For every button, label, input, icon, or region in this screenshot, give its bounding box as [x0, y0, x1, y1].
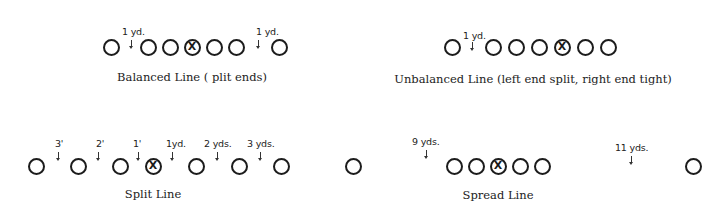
lineman-circle-icon: [70, 158, 87, 175]
lineman-circle-icon: [444, 39, 461, 56]
lineman-circle-icon: [273, 158, 290, 175]
down-arrow-icon: [426, 150, 427, 157]
center-player-icon: X: [145, 158, 162, 175]
split-distance-label: 11 yds.: [615, 142, 648, 153]
lineman-circle-icon: [512, 158, 529, 175]
center-x-mark: X: [492, 160, 505, 173]
lineman-circle-icon: [28, 158, 45, 175]
split-distance-label: 3 yds.: [247, 138, 275, 149]
lineman-circle-icon: [485, 39, 502, 56]
lineman-circle-icon: [446, 158, 463, 175]
center-x-mark: X: [556, 41, 569, 54]
split-distance-label: 3': [55, 138, 63, 149]
down-arrow-icon: [260, 152, 261, 159]
split-distance-label: 1yd.: [166, 138, 186, 149]
lineman-circle-icon: [468, 158, 485, 175]
formation-caption: Split Line: [125, 187, 181, 201]
formation-caption: Balanced Line ( plit ends): [117, 70, 267, 84]
split-distance-label: 1': [133, 138, 141, 149]
lineman-circle-icon: [103, 39, 120, 56]
split-distance-label: 1 yd.: [463, 30, 486, 41]
split-distance-label: 1 yd.: [122, 26, 145, 37]
formation-caption: Spread Line: [463, 188, 534, 201]
down-arrow-icon: [131, 40, 132, 47]
lineman-circle-icon: [231, 158, 248, 175]
center-player-icon: X: [554, 39, 571, 56]
lineman-circle-icon: [162, 39, 179, 56]
split-distance-label: 9 yds.: [412, 136, 440, 147]
lineman-circle-icon: [206, 39, 223, 56]
lineman-circle-icon: [228, 39, 245, 56]
down-arrow-icon: [138, 152, 139, 159]
center-x-mark: X: [186, 41, 199, 54]
lineman-circle-icon: [140, 39, 157, 56]
center-x-mark: X: [147, 160, 160, 173]
down-arrow-icon: [172, 152, 173, 159]
split-distance-label: 1 yd.: [256, 26, 279, 37]
center-player-icon: X: [184, 39, 201, 56]
lineman-circle-icon: [577, 39, 594, 56]
lineman-circle-icon: [188, 158, 205, 175]
lineman-circle-icon: [534, 158, 551, 175]
center-player-icon: X: [490, 158, 507, 175]
split-distance-label: 2': [96, 138, 104, 149]
lineman-circle-icon: [508, 39, 525, 56]
down-arrow-icon: [631, 156, 632, 163]
lineman-circle-icon: [112, 158, 129, 175]
down-arrow-icon: [217, 152, 218, 159]
down-arrow-icon: [472, 42, 473, 49]
lineman-circle-icon: [685, 158, 702, 175]
split-distance-label: 2 yds.: [204, 138, 232, 149]
down-arrow-icon: [98, 152, 99, 159]
formation-caption: Unbalanced Line (left end split, right e…: [394, 72, 672, 86]
lineman-circle-icon: [345, 158, 362, 175]
down-arrow-icon: [58, 152, 59, 159]
lineman-circle-icon: [531, 39, 548, 56]
line-formations-diagram: X1 yd.1 yd.Balanced Line ( plit ends)X1 …: [0, 0, 713, 201]
lineman-circle-icon: [271, 39, 288, 56]
down-arrow-icon: [258, 40, 259, 47]
lineman-circle-icon: [600, 39, 617, 56]
